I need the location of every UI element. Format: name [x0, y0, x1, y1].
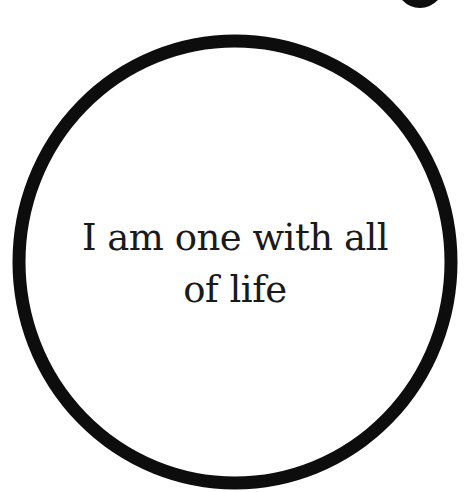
affirmation-line-1: I am one with all	[40, 212, 430, 264]
affirmation-line-2: of life	[40, 264, 430, 316]
partial-circle-top-right	[392, 0, 448, 4]
affirmation-text: I am one with all of life	[40, 212, 430, 316]
